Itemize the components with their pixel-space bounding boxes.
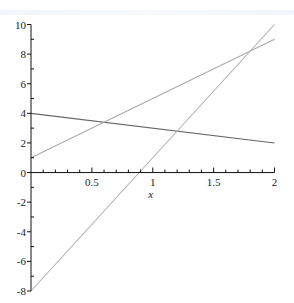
x-tick-label: 1.5 xyxy=(207,176,221,188)
series-line-1 xyxy=(31,113,275,143)
y-tick-label: 8 xyxy=(21,48,27,60)
y-tick-label: -8 xyxy=(17,285,27,297)
line-chart: 0.511.52-8-6-4-20246810 x xyxy=(0,0,294,303)
y-tick-label: 2 xyxy=(21,137,27,149)
x-tick-label: 1 xyxy=(150,176,156,188)
y-tick-label: 0 xyxy=(21,167,27,179)
y-tick-label: -2 xyxy=(17,196,26,208)
y-tick-label: -4 xyxy=(17,226,27,238)
tick-labels: 0.511.52-8-6-4-20246810 xyxy=(15,19,277,298)
y-tick-label: 10 xyxy=(15,19,27,31)
y-tick-label: -6 xyxy=(17,255,27,267)
x-tick-label: 2 xyxy=(272,176,278,188)
series-layer xyxy=(31,25,275,292)
x-tick-label: 0.5 xyxy=(85,176,99,188)
y-tick-label: 6 xyxy=(21,78,27,90)
x-axis-label: x xyxy=(147,188,153,200)
series-line-2 xyxy=(31,39,275,157)
y-tick-label: 4 xyxy=(21,107,27,119)
series-line-3 xyxy=(31,25,275,292)
